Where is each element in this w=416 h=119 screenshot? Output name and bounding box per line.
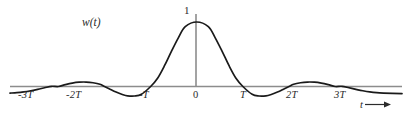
x-tick-label: 2T (286, 89, 298, 100)
x-tick-label: 0 (193, 89, 198, 100)
waveform-figure: w(t) 1 -3T-2T-T0T2T3T t (0, 0, 416, 119)
x-tick-label: 3T (334, 89, 346, 100)
x-axis-label-group: t (360, 99, 391, 110)
arrow-right-icon (365, 100, 391, 109)
x-tick-label: -2T (66, 89, 81, 100)
x-tick-label: -3T (18, 89, 33, 100)
x-tick-label: T (240, 89, 246, 100)
function-label: w(t) (82, 16, 101, 28)
x-tick-label: -T (139, 89, 149, 100)
plot-canvas (0, 0, 416, 119)
x-axis-label: t (360, 99, 363, 110)
peak-value-label: 1 (184, 4, 190, 16)
waveform-curve (10, 22, 402, 96)
